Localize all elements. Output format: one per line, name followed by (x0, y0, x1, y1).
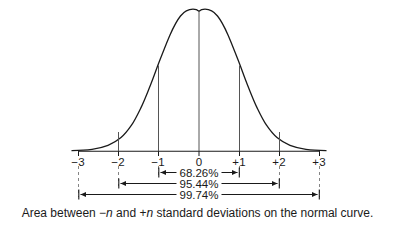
x-tick-label-minus-2: −2 (111, 156, 125, 168)
normal-curve-figure: −3 −2 −1 0 +1 +2 +3 68.26% 95.44% 99.74%… (0, 0, 395, 227)
band-label-99: 99.74% (176, 189, 221, 201)
x-tick-label-minus-1: −1 (151, 156, 165, 168)
x-tick-label-plus-2: +2 (272, 156, 286, 168)
figure-caption: Area between −n and +n standard deviatio… (0, 206, 395, 221)
x-tick-label-plus-3: +3 (312, 156, 326, 168)
caption-text-pre: Area between − (22, 206, 106, 220)
caption-text-post: standard deviations on the normal curve. (153, 206, 373, 220)
x-tick-label-minus-3: −3 (71, 156, 85, 168)
caption-text-mid: and + (113, 206, 147, 220)
x-tick-label-plus-1: +1 (232, 156, 246, 168)
caption-var-n-negative: n (106, 206, 113, 220)
